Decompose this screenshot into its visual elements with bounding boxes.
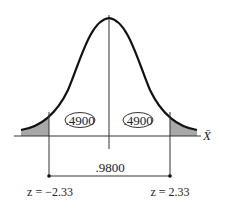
left-z-label: z = −2.33 (27, 185, 73, 199)
right-z-label: z = 2.33 (150, 185, 189, 199)
right-bracket-dot (168, 174, 172, 178)
middle-area-label: .9800 (95, 160, 124, 175)
left-area-label: .4900 (65, 113, 94, 128)
right-area-label: .4900 (123, 113, 152, 128)
normal-curve-diagram: X̄ .4900 .4900 .9800 z = −2.33 z = 2.33 (0, 0, 227, 207)
axis-label-xbar: X̄ (202, 128, 212, 143)
left-bracket-dot (47, 174, 51, 178)
